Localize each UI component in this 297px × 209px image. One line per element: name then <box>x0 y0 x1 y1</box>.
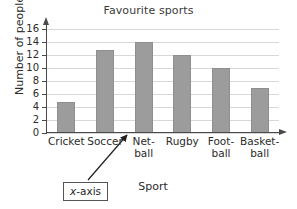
y-tick-label: 12 <box>14 50 39 60</box>
y-tick-mark <box>42 120 47 121</box>
chart-title: Favourite sports <box>0 4 297 17</box>
gridline <box>47 94 279 95</box>
plot-area <box>47 29 279 133</box>
x-axis-arrowhead <box>279 129 287 135</box>
bar <box>173 55 191 133</box>
y-tick-label: 6 <box>14 89 39 99</box>
y-tick-label: 16 <box>14 24 39 34</box>
gridline <box>47 29 279 30</box>
gridline <box>47 120 279 121</box>
y-tick-mark <box>42 68 47 69</box>
gridline <box>47 107 279 108</box>
y-tick-label: 4 <box>14 102 39 112</box>
y-tick-mark <box>42 42 47 43</box>
y-tick-mark <box>42 55 47 56</box>
x-tick-label: Basket- ball <box>234 136 286 159</box>
y-tick-label: 10 <box>14 63 39 73</box>
y-tick-label: 0 <box>14 128 39 138</box>
gridline <box>47 42 279 43</box>
bar <box>96 50 114 133</box>
y-tick-mark <box>42 81 47 82</box>
bar <box>135 42 153 133</box>
gridline <box>47 68 279 69</box>
bar-chart-figure: Favourite sports Number of people x-axis… <box>0 0 297 209</box>
x-axis-title: Sport <box>98 180 208 193</box>
bar <box>251 88 269 134</box>
bar <box>212 68 230 133</box>
y-tick-mark <box>42 29 47 30</box>
y-tick-label: 2 <box>14 115 39 125</box>
y-axis-arrowhead <box>43 17 49 25</box>
y-tick-mark <box>42 107 47 108</box>
gridline <box>47 55 279 56</box>
gridline <box>47 81 279 82</box>
x-axis-line <box>47 132 279 133</box>
y-tick-mark <box>42 94 47 95</box>
y-axis-line <box>46 24 47 133</box>
y-tick-mark <box>42 133 47 134</box>
y-tick-label: 14 <box>14 37 39 47</box>
bar <box>57 102 75 133</box>
y-tick-label: 8 <box>14 76 39 86</box>
